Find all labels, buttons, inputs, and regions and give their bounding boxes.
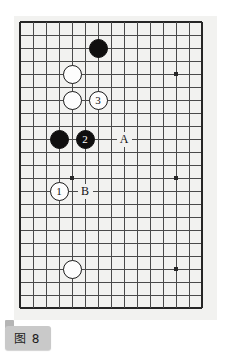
white-move-3[interactable]: 3 (89, 91, 108, 110)
go-board-grid (14, 16, 217, 320)
figure-caption: 图 8 (5, 326, 51, 350)
black-stone-left[interactable] (50, 130, 69, 149)
white-move-3-number: 3 (90, 92, 107, 109)
go-diagram-figure: 321 AB 图 8 (0, 0, 231, 357)
star-point (174, 267, 178, 271)
black-move-2[interactable]: 2 (76, 130, 95, 149)
star-point (174, 72, 178, 76)
white-move-1[interactable]: 1 (50, 182, 69, 201)
black-stone-top[interactable] (89, 39, 108, 58)
white-stone-upper[interactable] (63, 65, 82, 84)
star-point (174, 176, 178, 180)
star-point (70, 176, 74, 180)
white-move-1-number: 1 (51, 183, 68, 200)
white-stone-middle[interactable] (63, 91, 82, 110)
go-board-inner: 321 AB (14, 16, 217, 320)
point-label-a: A (117, 132, 132, 147)
black-move-2-number: 2 (77, 131, 94, 148)
go-board[interactable]: 321 AB (14, 16, 217, 320)
white-stone-lower[interactable] (63, 260, 82, 279)
point-label-b: B (78, 184, 93, 199)
